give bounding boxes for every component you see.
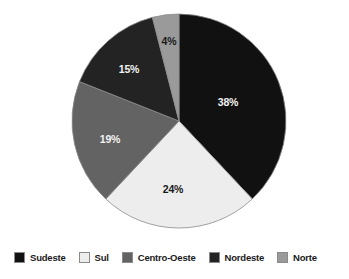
legend-item-norte[interactable]: Norte [277, 252, 317, 263]
legend-item-sul[interactable]: Sul [79, 252, 109, 263]
pie-slice-label-centro-oeste: 19% [100, 133, 121, 145]
legend-item-label: Norte [293, 252, 317, 263]
legend-item-label: Nordeste [225, 252, 265, 263]
pie-slice-label-nordeste: 15% [119, 63, 140, 75]
legend-swatch-icon [277, 252, 288, 263]
legend-swatch-icon [14, 252, 25, 263]
pie-slice-label-norte: 4% [162, 35, 178, 47]
pie-plot-area: 38%24%19%15%4% [0, 0, 349, 232]
pie-slice-label-sudeste: 38% [218, 96, 239, 108]
pie-chart: 38%24%19%15%4% SudesteSulCentro-OesteNor… [0, 0, 349, 279]
pie-slice-group [72, 14, 286, 228]
legend-item-label: Centro-Oeste [138, 252, 196, 263]
legend-item-nordeste[interactable]: Nordeste [209, 252, 265, 263]
legend-item-centro-oeste[interactable]: Centro-Oeste [122, 252, 196, 263]
legend-item-label: Sul [95, 252, 109, 263]
legend-swatch-icon [79, 252, 90, 263]
legend-item-label: Sudeste [30, 252, 66, 263]
legend-swatch-icon [209, 252, 220, 263]
pie-slice-label-sul: 24% [163, 183, 184, 195]
legend-swatch-icon [122, 252, 133, 263]
chart-legend: SudesteSulCentro-OesteNordesteNorte [0, 244, 349, 270]
legend-item-sudeste[interactable]: Sudeste [14, 252, 66, 263]
pie-svg: 38%24%19%15%4% [0, 0, 349, 232]
